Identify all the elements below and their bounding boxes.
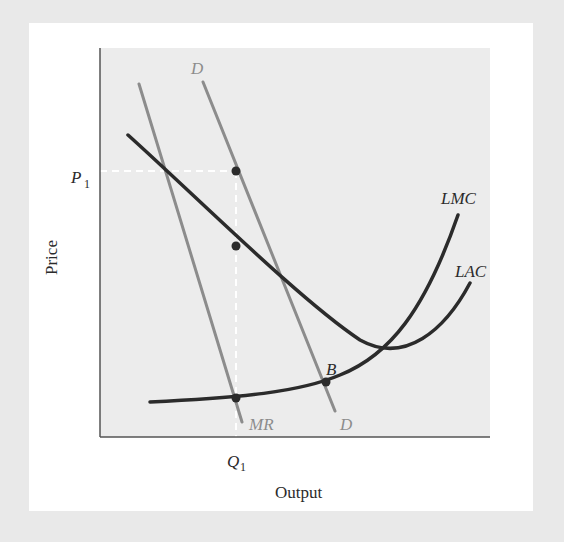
chart-canvas: D D MR LMC LAC B P 1 Q 1 Price Output xyxy=(0,0,564,542)
label-d-top: D xyxy=(190,59,204,78)
label-q1: Q 1 xyxy=(227,452,246,474)
label-p1: P 1 xyxy=(70,168,90,191)
y-axis-title: Price xyxy=(42,240,61,275)
svg-text:1: 1 xyxy=(240,460,246,474)
svg-text:1: 1 xyxy=(84,177,90,191)
label-lac: LAC xyxy=(454,262,487,281)
label-mr: MR xyxy=(248,415,274,434)
point-lac-at-q1 xyxy=(232,242,241,251)
point-p1-on-demand xyxy=(232,167,241,176)
point-mr-lmc-intersection xyxy=(232,394,241,403)
svg-text:P: P xyxy=(70,168,81,187)
label-b: B xyxy=(326,360,337,379)
plot-area xyxy=(100,48,490,437)
label-lmc: LMC xyxy=(440,189,477,208)
x-axis-title: Output xyxy=(275,483,323,502)
svg-text:Q: Q xyxy=(227,452,239,471)
label-d-bottom: D xyxy=(339,415,353,434)
